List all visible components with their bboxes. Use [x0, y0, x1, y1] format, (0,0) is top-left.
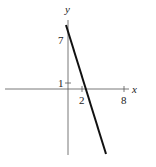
data-line — [66, 25, 106, 154]
y-axis-label: y — [64, 3, 70, 15]
x-axis-label: x — [131, 83, 137, 95]
x-tick-label-2: 2 — [79, 94, 85, 106]
y-tick-label-7: 7 — [58, 34, 64, 46]
y-tick-label-1: 1 — [58, 77, 64, 89]
x-tick-label-8: 8 — [121, 94, 127, 106]
line-graph: y x 2 8 1 7 — [0, 0, 156, 167]
